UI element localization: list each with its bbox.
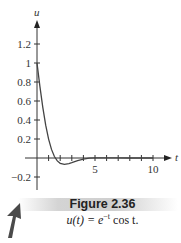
y-axis-arrow-icon	[34, 20, 40, 28]
chart-plot: u t 1.2 1 0.8 0.6 0.4 0.2 −0.2 5 10	[0, 0, 181, 195]
caption-rhs: cos t.	[110, 213, 138, 227]
svg-text:1: 1	[26, 57, 32, 69]
x-tick-label-10: 10	[148, 163, 160, 175]
svg-text:0.8: 0.8	[17, 76, 31, 88]
svg-text:0.2: 0.2	[17, 133, 31, 145]
figure-title: Figure 2.36	[0, 197, 181, 211]
x-axis-arrow-icon	[164, 155, 172, 161]
y-axis-label: u	[34, 6, 40, 18]
pointer-arrow-icon	[4, 203, 24, 239]
curve-u-of-t	[37, 63, 153, 164]
svg-text:0.6: 0.6	[17, 95, 31, 107]
y-tick-labels: 1.2 1 0.8 0.6 0.4 0.2 −0.2	[11, 38, 31, 183]
caption-lhs: u(t) = e	[67, 213, 104, 227]
svg-text:−0.2: −0.2	[11, 171, 31, 183]
figure-caption: u(t) = e−t cos t.	[0, 212, 181, 228]
svg-text:0.4: 0.4	[17, 114, 31, 126]
svg-text:1.2: 1.2	[17, 38, 31, 50]
x-axis-label: t	[175, 151, 179, 163]
x-tick-label-5: 5	[92, 163, 98, 175]
